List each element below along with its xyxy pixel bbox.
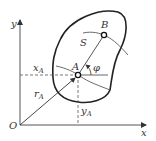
- point-b-label: B: [100, 19, 108, 30]
- xa-label: xA: [33, 62, 44, 75]
- arc-s-label: S: [80, 37, 87, 48]
- origin-label: O: [9, 120, 17, 131]
- angle-arc: [86, 65, 91, 75]
- curve-through-a: [56, 66, 110, 90]
- y-axis-label: y: [10, 18, 17, 29]
- x-axis-label: x: [141, 127, 147, 138]
- ya-label: yA: [80, 105, 92, 118]
- point-a-label: A: [71, 61, 79, 72]
- point-b-marker: [101, 32, 106, 37]
- position-vector-ra: [20, 78, 75, 125]
- ra-label: rA: [34, 88, 44, 101]
- rigid-body-diagram: O y x A B S φ xA yA rA: [0, 0, 156, 141]
- angle-phi-label: φ: [93, 62, 100, 73]
- point-a-marker: [75, 72, 80, 77]
